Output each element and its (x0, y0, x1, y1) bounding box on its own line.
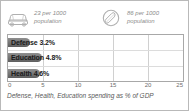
stat-telephones-value: 86 per 1000 (127, 10, 159, 16)
bar-label: Defense 3.2% (11, 39, 55, 46)
chart-plot-area: Defense 3.2%Education 4.8%Health 4.6% (8, 35, 183, 81)
stat-telephones-text: 86 per 1000 population (127, 10, 159, 25)
stat-telephones: 86 per 1000 population (96, 7, 189, 29)
stat-vehicles: 23 per 1000 population (1, 7, 96, 29)
axis-tick: 10 (75, 82, 82, 88)
axis-tick: 0 (8, 82, 11, 88)
bar-chart-panel: Defense 3.2%Education 4.8%Health 4.6% (7, 34, 184, 82)
stat-vehicles-unit: population (34, 18, 66, 26)
bar-label: Education 4.8% (11, 54, 61, 61)
bar-row: Education 4.8% (8, 50, 183, 65)
stats-row: 23 per 1000 population 86 per 1000 popul… (1, 1, 189, 34)
car-icon (6, 7, 30, 29)
infographic-widget: 23 per 1000 population 86 per 1000 popul… (0, 0, 189, 111)
stat-vehicles-text: 23 per 1000 population (34, 10, 66, 25)
chart-caption: Defense, Health, Education spending as %… (7, 92, 187, 99)
bar-label: Health 4.6% (11, 70, 49, 77)
bar-row: Health 4.6% (8, 66, 183, 81)
axis-tick: 20 (145, 82, 152, 88)
stat-vehicles-value: 23 per 1000 (34, 10, 66, 16)
bar-row: Defense 3.2% (8, 35, 183, 50)
axis-tick: 5 (41, 82, 44, 88)
axis-tick: 25 (176, 82, 183, 88)
stat-telephones-unit: population (127, 18, 159, 26)
telephone-icon (99, 7, 123, 29)
axis-tick: 15 (110, 82, 117, 88)
x-axis: 0510152025 (7, 82, 184, 91)
